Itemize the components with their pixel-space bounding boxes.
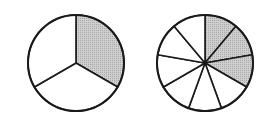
thirds-circle	[28, 15, 124, 111]
fraction-diagram	[0, 0, 258, 118]
ninths-circle	[157, 15, 253, 111]
